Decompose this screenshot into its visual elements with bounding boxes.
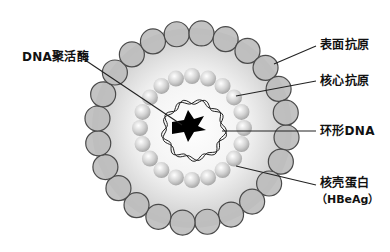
label-hbeag: （HBeAg） <box>316 193 379 207</box>
core-bead <box>132 120 148 136</box>
surface-bead <box>266 76 291 101</box>
surface-bead <box>140 29 165 54</box>
core-bead <box>168 71 184 87</box>
core-bead <box>153 78 169 94</box>
surface-bead <box>86 131 111 156</box>
core-bead <box>142 151 158 167</box>
core-bead <box>226 151 242 167</box>
core-bead <box>184 172 200 188</box>
core-bead <box>135 136 151 152</box>
surface-bead <box>268 149 293 174</box>
core-bead <box>236 120 252 136</box>
surface-bead <box>195 209 220 234</box>
core-bead <box>233 136 249 152</box>
surface-bead <box>274 125 299 150</box>
surface-bead <box>189 21 214 46</box>
core-bead <box>200 169 216 185</box>
core-bead <box>184 68 200 84</box>
label-core-antigen: 核心抗原 <box>320 74 369 88</box>
core-bead <box>135 104 151 120</box>
leader-line-surface-antigen <box>274 46 316 64</box>
core-bead <box>168 169 184 185</box>
surface-bead <box>91 82 116 107</box>
core-bead <box>233 104 249 120</box>
core-bead <box>215 78 231 94</box>
core-bead <box>226 89 242 105</box>
surface-bead <box>85 106 110 131</box>
surface-bead <box>273 100 298 125</box>
core-bead <box>153 162 169 178</box>
label-capsid-protein: 核壳蛋白 <box>320 176 369 190</box>
core-bead <box>215 162 231 178</box>
surface-bead <box>170 210 195 235</box>
surface-bead <box>219 202 244 227</box>
label-surface-antigen: 表面抗原 <box>320 38 369 52</box>
core-bead <box>200 71 216 87</box>
surface-bead <box>146 204 171 229</box>
surface-bead <box>93 155 118 180</box>
label-circular-dna: 环形DNA <box>320 124 375 138</box>
surface-bead <box>164 22 189 47</box>
surface-bead <box>213 27 238 52</box>
label-dna-polymerase: DNA聚活酶 <box>22 50 89 64</box>
